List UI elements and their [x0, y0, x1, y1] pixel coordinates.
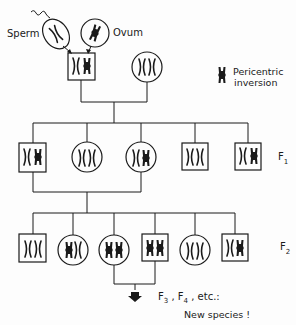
sperm-tail	[31, 11, 50, 18]
f1-label: F1	[278, 151, 288, 166]
ovum-label: Ovum	[113, 27, 143, 38]
f2-individual-2	[58, 235, 88, 265]
pedigree-diagram: Sperm Ovum	[0, 0, 296, 325]
f2-individual-6	[222, 234, 248, 261]
f2-individual-4	[142, 234, 168, 261]
inverted-chromosome-icon	[218, 67, 226, 83]
f2-individual-3	[99, 235, 129, 265]
f3-f4-label: F3 , F4 , etc.:	[158, 291, 220, 305]
f2-individual-1	[19, 234, 46, 262]
f1-individual-3	[126, 142, 156, 172]
connector-lines	[33, 80, 248, 290]
f2-individual-5	[180, 235, 210, 265]
legend-line-1: Pericentric	[233, 66, 283, 77]
new-species-label: New species !	[184, 309, 250, 320]
down-arrow-icon	[128, 292, 142, 302]
parent-female	[132, 52, 162, 82]
f1-individual-1	[19, 143, 46, 172]
f1-individual-5	[235, 143, 261, 170]
f1-individual-2	[72, 142, 102, 172]
legend: Pericentric inversion	[218, 66, 283, 88]
parent-male	[68, 53, 95, 80]
f1-individual-4	[182, 143, 208, 170]
sperm-label: Sperm	[7, 28, 40, 39]
ovum-gamete	[81, 19, 109, 47]
f2-label: F2	[280, 241, 290, 256]
legend-line-2: inversion	[234, 77, 277, 88]
